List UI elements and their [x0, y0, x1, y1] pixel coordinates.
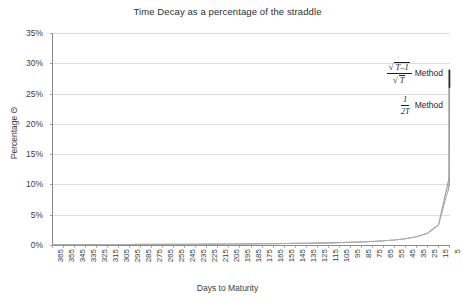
x-tick-label: 55 [398, 249, 406, 279]
radical-icon: √ [389, 62, 394, 72]
radical-icon: √ [393, 75, 398, 85]
fraction-denominator: 2T [399, 106, 412, 116]
y-tick-label: 5% [3, 211, 43, 220]
x-tick-label: 355 [68, 249, 76, 279]
y-tick-label: 30% [3, 59, 43, 68]
y-axis-title: Percentage Θ [9, 88, 19, 178]
x-tick-label: 65 [387, 249, 395, 279]
x-tick-label: 295 [134, 249, 142, 279]
annotation-sqrt-method: √T–1 √T Method [387, 62, 443, 84]
x-tick-label: 285 [145, 249, 153, 279]
series-line [53, 185, 450, 245]
x-tick-label: 105 [343, 249, 351, 279]
x-tick-label: 205 [233, 249, 241, 279]
x-tick-label: 75 [376, 249, 384, 279]
x-tick-label: 265 [167, 249, 175, 279]
sqrt-numerator-body: T–1 [394, 62, 409, 72]
x-tick-label: 345 [79, 249, 87, 279]
x-tick-label: 25 [431, 249, 439, 279]
x-tick-label: 305 [123, 249, 131, 279]
x-tick-label: 125 [321, 249, 329, 279]
x-tick-label: 15 [442, 249, 450, 279]
sqrt-denominator-body: T [399, 75, 406, 85]
x-tick-label: 175 [266, 249, 274, 279]
x-tick-label: 315 [112, 249, 120, 279]
x-tick-label: 225 [211, 249, 219, 279]
x-tick-label: 235 [200, 249, 208, 279]
annotation-inverse-method: 1 2T Method [399, 95, 443, 115]
x-tick-label: 85 [365, 249, 373, 279]
x-tick-label: 165 [277, 249, 285, 279]
x-tick-label: 115 [332, 249, 340, 279]
x-tick-label: 335 [90, 249, 98, 279]
y-tick-label: 10% [3, 180, 43, 189]
y-tick-label: 35% [3, 29, 43, 38]
method-label: Method [415, 100, 443, 110]
x-tick-label: 185 [255, 249, 263, 279]
fraction-numerator: √T–1 [387, 62, 412, 74]
x-tick-label: 145 [299, 249, 307, 279]
x-tick-label: 5 [454, 249, 462, 279]
x-tick-label: 135 [310, 249, 318, 279]
x-tick-label: 95 [354, 249, 362, 279]
x-tick-label: 325 [101, 249, 109, 279]
x-tick-label: 255 [178, 249, 186, 279]
x-tick-label: 155 [288, 249, 296, 279]
fraction-numerator: 1 [401, 95, 409, 106]
x-axis-ticks: 3653553453353253153052952852752652552452… [0, 247, 455, 281]
x-tick-label: 215 [222, 249, 230, 279]
x-tick-label: 275 [156, 249, 164, 279]
x-tick-label: 35 [420, 249, 428, 279]
x-tick-label: 245 [189, 249, 197, 279]
x-axis-title: Days to Maturity [0, 283, 455, 293]
series-line [53, 176, 450, 244]
x-tick-label: 195 [244, 249, 252, 279]
fraction-sqrt: √T–1 √T [387, 62, 412, 84]
x-tick-label: 365 [57, 249, 65, 279]
series-group [53, 70, 450, 245]
method-label: Method [415, 68, 443, 78]
x-tick-label: 45 [409, 249, 417, 279]
fraction-denominator: √T [391, 74, 407, 85]
fraction-inverse: 1 2T [399, 95, 412, 115]
